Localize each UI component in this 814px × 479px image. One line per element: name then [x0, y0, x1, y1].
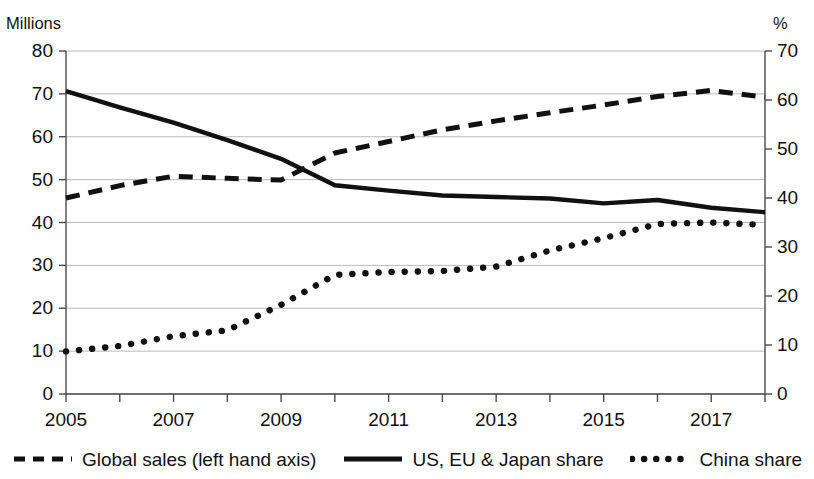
x-axis-tick-label: 2011 — [357, 410, 421, 429]
right-axis-tick-label: 30 — [777, 237, 814, 256]
x-axis-tick-label: 2005 — [34, 410, 98, 429]
legend-swatch-dotted — [630, 452, 692, 466]
left-axis-tick-label: 40 — [7, 213, 53, 232]
left-axis-tick-label: 0 — [7, 384, 53, 403]
x-axis-tick-label: 2009 — [249, 410, 313, 429]
chart-legend: Global sales (left hand axis)US, EU & Ja… — [0, 443, 814, 475]
right-axis-tick-label: 0 — [777, 384, 814, 403]
series-line-0 — [66, 90, 765, 198]
series-line-2 — [66, 223, 765, 352]
x-axis-tick-label: 2007 — [142, 410, 206, 429]
right-axis-tick-label: 50 — [777, 139, 814, 158]
legend-item-0[interactable]: Global sales (left hand axis) — [12, 450, 316, 469]
right-axis-tick-label: 20 — [777, 286, 814, 305]
left-axis-tick-label: 20 — [7, 298, 53, 317]
chart-container: Millions % 01020304050607080 01020304050… — [0, 0, 814, 479]
legend-label: Global sales (left hand axis) — [82, 450, 316, 469]
legend-label: US, EU & Japan share — [412, 450, 603, 469]
series-line-1 — [66, 91, 765, 212]
legend-swatch-dashed — [12, 452, 74, 466]
left-axis-tick-label: 80 — [7, 41, 53, 60]
right-axis-tick-label: 10 — [777, 335, 814, 354]
x-axis-tick-label: 2013 — [464, 410, 528, 429]
legend-item-2[interactable]: China share — [630, 450, 802, 469]
legend-item-1[interactable]: US, EU & Japan share — [342, 450, 603, 469]
left-axis-tick-label: 60 — [7, 127, 53, 146]
right-axis-tick-label: 60 — [777, 90, 814, 109]
legend-label: China share — [700, 450, 802, 469]
legend-swatch-solid — [342, 452, 404, 466]
x-axis-tick-label: 2015 — [572, 410, 636, 429]
left-axis-tick-label: 70 — [7, 84, 53, 103]
x-axis-tick-label: 2017 — [679, 410, 743, 429]
left-axis-tick-label: 10 — [7, 341, 53, 360]
right-axis-tick-label: 70 — [777, 41, 814, 60]
right-axis-tick-label: 40 — [777, 188, 814, 207]
left-axis-tick-label: 30 — [7, 255, 53, 274]
left-axis-tick-label: 50 — [7, 170, 53, 189]
plot-area — [0, 0, 814, 479]
